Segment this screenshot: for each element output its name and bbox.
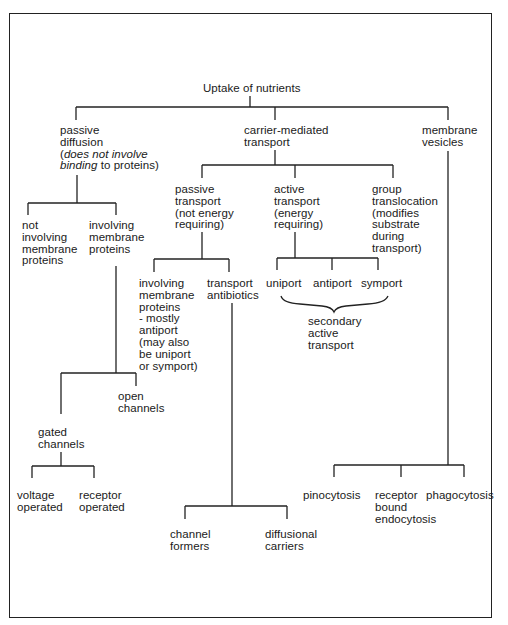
node-group-translocation: group translocation (modifies substrate … — [372, 184, 438, 255]
node-gated-channels: gated channels — [38, 427, 84, 451]
passive-diffusion-line2: diffusion — [60, 136, 103, 148]
node-voltage-operated: voltage operated — [17, 490, 63, 514]
node-uptake-of-nutrients: Uptake of nutrients — [203, 83, 300, 95]
node-open-channels: open channels — [118, 391, 164, 415]
node-pinocytosis: pinocytosis — [303, 490, 360, 502]
node-passive-transport: passive transport (not energy requiring) — [175, 184, 234, 231]
node-secondary-active-transport: secondary active transport — [308, 316, 362, 351]
node-transport-antibiotics: transport antibiotics — [207, 278, 259, 302]
node-involving-membrane-proteins-antiport: involving membrane proteins - mostly ant… — [139, 278, 198, 372]
node-active-transport: active transport (energy requiring) — [274, 184, 323, 231]
node-not-involving-membrane-proteins: not involving membrane proteins — [22, 220, 77, 267]
node-uniport: uniport — [266, 278, 302, 290]
passive-diffusion-italic-1: does not involve — [64, 148, 148, 160]
node-membrane-vesicles: membrane vesicles — [422, 125, 477, 149]
passive-diffusion-line4: to proteins) — [97, 159, 158, 171]
node-carrier-mediated-transport: carrier-mediated transport — [244, 125, 329, 149]
node-phagocytosis: phagocytosis — [426, 490, 494, 502]
passive-diffusion-line1: passive — [60, 124, 99, 136]
node-symport: symport — [361, 278, 402, 290]
node-channel-formers: channel formers — [170, 529, 211, 553]
node-receptor-operated: receptor operated — [79, 490, 125, 514]
node-passive-diffusion: passive diffusion (does not involve bind… — [60, 125, 159, 172]
node-diffusional-carriers: diffusional carriers — [265, 529, 317, 553]
node-antiport: antiport — [313, 278, 352, 290]
passive-diffusion-italic-2: binding — [60, 159, 97, 171]
node-involving-membrane-proteins: involving membrane proteins — [89, 220, 144, 255]
